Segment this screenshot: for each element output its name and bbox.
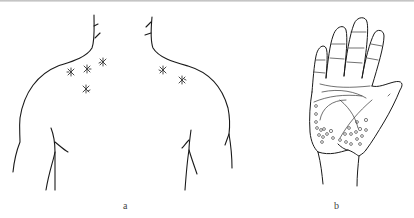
medical-illustration bbox=[0, 0, 414, 218]
panel-label-b: b bbox=[334, 201, 339, 211]
panel-a-torso-outline bbox=[13, 15, 232, 190]
papule bbox=[315, 105, 318, 108]
papule-markers bbox=[315, 105, 368, 146]
papule bbox=[348, 127, 351, 130]
papule bbox=[322, 136, 325, 139]
papule bbox=[355, 131, 358, 134]
papule bbox=[320, 129, 323, 132]
papule bbox=[315, 113, 318, 116]
papule bbox=[323, 128, 326, 131]
lesion-markers bbox=[67, 58, 186, 93]
lesion-marker bbox=[67, 68, 74, 76]
papule bbox=[315, 121, 318, 124]
lesion-marker bbox=[159, 66, 166, 74]
papule bbox=[321, 141, 324, 144]
papule bbox=[345, 141, 348, 144]
panel-label-a: a bbox=[123, 201, 127, 211]
lesion-marker bbox=[179, 76, 186, 84]
papule bbox=[344, 133, 347, 136]
papule bbox=[356, 138, 359, 141]
papule bbox=[350, 133, 353, 136]
papule bbox=[329, 129, 332, 132]
papule bbox=[339, 139, 342, 142]
papule bbox=[318, 134, 321, 137]
papule bbox=[332, 137, 335, 140]
lesion-marker bbox=[83, 85, 90, 93]
papule bbox=[316, 127, 319, 130]
papule bbox=[326, 133, 329, 136]
papule bbox=[364, 118, 367, 121]
papule bbox=[361, 135, 364, 138]
panel-b-hand-outline bbox=[310, 18, 402, 186]
papule bbox=[359, 143, 362, 146]
papule bbox=[365, 129, 368, 132]
papule bbox=[350, 143, 353, 146]
lesion-marker bbox=[84, 65, 91, 73]
papule bbox=[358, 127, 361, 130]
lesion-marker bbox=[99, 58, 106, 66]
